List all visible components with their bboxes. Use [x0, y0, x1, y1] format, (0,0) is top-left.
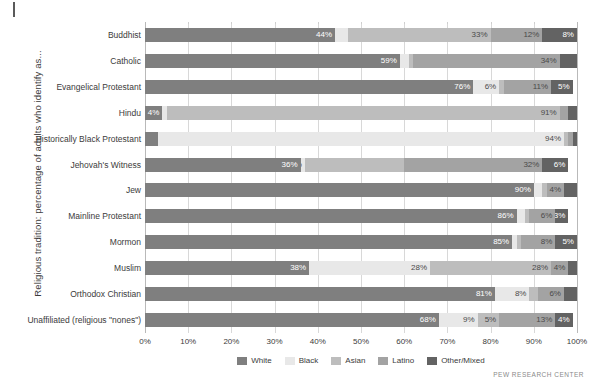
legend-item-asian[interactable]: Asian — [331, 356, 365, 365]
bar-segment-black: 8% — [495, 287, 530, 301]
bar-segment-asian — [305, 158, 404, 172]
bar-value-label: 3% — [555, 212, 565, 220]
legend-item-white[interactable]: White — [237, 356, 271, 365]
bar-row: 76%6%11%5% — [145, 80, 577, 94]
legend-swatch-icon — [237, 357, 247, 365]
y-axis-tick-label: Hindu — [119, 106, 141, 120]
bar-segment-white: 68% — [145, 313, 439, 327]
bar-row: 68%9%5%13%4% — [145, 313, 577, 327]
bar-segment-other-mixed: 6% — [542, 158, 568, 172]
bar-segment-black: 28% — [309, 261, 430, 275]
plot-area: 44%33%12%8%59%34%76%6%11%5%4%91%94%36%27… — [145, 22, 577, 333]
bar-value-label: 44% — [316, 31, 332, 39]
bar-segment-white: 36% — [145, 158, 301, 172]
legend-item-other-mixed[interactable]: Other/Mixed — [427, 356, 485, 365]
bar-segment-asian: 33% — [348, 28, 491, 42]
bar-segment-asian — [529, 287, 538, 301]
bar-row: 86%6%3% — [145, 209, 577, 223]
bar-value-label: 34% — [541, 57, 557, 65]
y-axis-tick-label: Orthodox Christian — [70, 287, 141, 301]
x-axis-tick-label: 80% — [483, 337, 499, 346]
bar-segment-latino: 11% — [504, 80, 552, 94]
bar-value-label: 8% — [515, 290, 527, 298]
bar-segment-black: 6% — [473, 80, 499, 94]
bar-row: 59%34% — [145, 54, 577, 68]
top-left-mark — [13, 2, 15, 17]
bar-value-label: 86% — [498, 212, 514, 220]
legend-label: White — [251, 356, 271, 365]
bar-value-label: 8% — [541, 238, 553, 246]
bar-value-label: 4% — [558, 316, 570, 324]
bar-segment-white: 59% — [145, 54, 400, 68]
bar-segment-white: 38% — [145, 261, 309, 275]
bar-row: 94% — [145, 132, 577, 146]
x-axis-tick-label: 40% — [310, 337, 326, 346]
bar-row: 81%8%6% — [145, 287, 577, 301]
bar-segment-white: 85% — [145, 235, 512, 249]
bar-segment-asian: 5% — [478, 313, 500, 327]
bar-segment-latino — [560, 106, 569, 120]
bar-segment-other-mixed: 5% — [555, 235, 577, 249]
bar-value-label: 28% — [411, 264, 427, 272]
y-axis-tick-label: Jehovah's Witness — [70, 158, 141, 172]
bar-segment-other-mixed: 3% — [555, 209, 568, 223]
bar-value-label: 13% — [536, 316, 552, 324]
x-axis-tick-label: 30% — [267, 337, 283, 346]
bar-segment-white: 81% — [145, 287, 495, 301]
bar-value-label: 32% — [523, 161, 539, 169]
legend-item-black[interactable]: Black — [285, 356, 319, 365]
bar-segment-latino: 34% — [413, 54, 560, 68]
bar-segment-white: 4% — [145, 106, 162, 120]
bar-value-label: 6% — [541, 212, 553, 220]
bar-segment-asian: 28% — [430, 261, 551, 275]
bar-segment-black — [534, 183, 543, 197]
x-axis-tick-labels: 0%10%20%30%40%50%60%70%80%90%100% — [145, 337, 577, 351]
y-axis-tick-label: Muslim — [114, 261, 141, 275]
bar-segment-other-mixed — [573, 132, 577, 146]
bar-segment-white: 76% — [145, 80, 473, 94]
bar-segment-black — [517, 209, 526, 223]
bar-value-label: 38% — [290, 264, 306, 272]
bar-value-label: 6% — [554, 161, 566, 169]
bar-segment-black — [400, 54, 409, 68]
bar-segment-asian: 91% — [167, 106, 560, 120]
bar-segment-white: 90% — [145, 183, 534, 197]
legend-swatch-icon — [331, 357, 341, 365]
y-axis-tick-label: Unaffiliated (religious "nones") — [27, 313, 141, 327]
bar-value-label: 8% — [562, 31, 574, 39]
bar-row: 38%28%28%4% — [145, 261, 577, 275]
bar-value-label: 68% — [420, 316, 436, 324]
y-axis-tick-label: Mainline Protestant — [68, 209, 141, 223]
x-axis-tick-label: 70% — [439, 337, 455, 346]
x-axis-tick-label: 100% — [567, 337, 587, 346]
bar-value-label: 94% — [545, 135, 561, 143]
bar-row: 4%91% — [145, 106, 577, 120]
y-axis-tick-label: Jew — [126, 183, 141, 197]
x-axis-tick-label: 20% — [223, 337, 239, 346]
bar-value-label: 33% — [472, 31, 488, 39]
bar-value-label: 4% — [549, 186, 561, 194]
bar-value-label: 12% — [523, 31, 539, 39]
y-axis-tick-label: Mormon — [110, 235, 141, 249]
bar-segment-white: 86% — [145, 209, 517, 223]
bar-value-label: 36% — [282, 161, 298, 169]
bar-segment-other-mixed: 5% — [551, 80, 573, 94]
bar-value-label: 5% — [558, 83, 570, 91]
y-axis-tick-label: Historically Black Protestant — [36, 132, 141, 146]
x-axis-tick-label: 10% — [180, 337, 196, 346]
bar-segment-latino: 13% — [499, 313, 555, 327]
legend-item-latino[interactable]: Latino — [378, 356, 414, 365]
y-axis-tick-label: Buddhist — [108, 28, 141, 42]
bar-segment-black — [335, 28, 348, 42]
bar-segment-other-mixed: 8% — [542, 28, 577, 42]
bar-value-label: 4% — [554, 264, 566, 272]
x-axis-tick-label: 60% — [396, 337, 412, 346]
bar-value-label: 91% — [541, 109, 557, 117]
bar-segment-other-mixed — [564, 183, 577, 197]
bar-row: 36%27%32%6% — [145, 158, 577, 172]
bar-row: 44%33%12%8% — [145, 28, 577, 42]
bar-segment-other-mixed — [564, 287, 577, 301]
bar-value-label: 59% — [381, 57, 397, 65]
bar-row: 85%8%5% — [145, 235, 577, 249]
bar-segment-other-mixed: 4% — [555, 313, 572, 327]
